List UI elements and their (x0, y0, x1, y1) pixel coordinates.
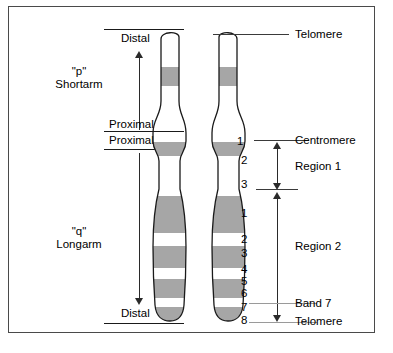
band-number-r2b3: 3 (241, 247, 247, 259)
long-arm-symbol: "q" (33, 225, 125, 238)
telomere-top-leader (213, 34, 289, 35)
long-arm-name: Longarm (33, 238, 125, 251)
p-distal-label: Distal (121, 32, 150, 45)
region1-shaft (277, 147, 278, 185)
band-number-r2b5: 5 (241, 275, 247, 287)
short-arm-label-group: "p" Shortarm (33, 65, 125, 91)
region2-shaft (277, 197, 278, 317)
q-proximal-label: Proximal (109, 134, 154, 147)
band-number-r1b3: 3 (241, 178, 247, 190)
q-arrow-shaft (139, 153, 140, 299)
short-arm-name: Shortarm (33, 78, 125, 91)
region2-arrow-bottom (273, 315, 281, 322)
band-number-r1b2: 2 (241, 154, 247, 166)
short-arm-symbol: "p" (33, 65, 125, 78)
band7-label: Band 7 (295, 297, 331, 310)
telomere-top-label: Telomere (295, 28, 342, 41)
band-number-r2b8: 8 (241, 314, 247, 326)
figure-frame: "p" Shortarm "q" Longarm Distal Proximal… (8, 6, 375, 333)
centromere-label: Centromere (295, 134, 356, 147)
band-number-r2b2: 2 (241, 233, 247, 245)
long-arm-label-group: "q" Longarm (33, 225, 125, 251)
telomere-bottom-label: Telomere (295, 315, 342, 328)
short-arm-bands-left (149, 67, 199, 156)
region2-label: Region 2 (295, 240, 341, 253)
band-number-r2b6: 6 (241, 287, 247, 299)
p-proximal-label: Proximal (109, 118, 154, 131)
q-arrow-head (135, 298, 143, 305)
q-distal-label: Distal (121, 307, 150, 320)
band-number-r2b4: 4 (241, 263, 247, 275)
long-arm-bands-left (149, 196, 199, 323)
chromosome-illustration (149, 29, 249, 329)
band-number-r1b1: 1 (237, 135, 243, 147)
region1-lower-tick (256, 189, 298, 190)
band-number-r2b7: 7 (241, 301, 247, 313)
region1-label: Region 1 (295, 160, 341, 173)
band-number-r2b1: 1 (241, 207, 247, 219)
